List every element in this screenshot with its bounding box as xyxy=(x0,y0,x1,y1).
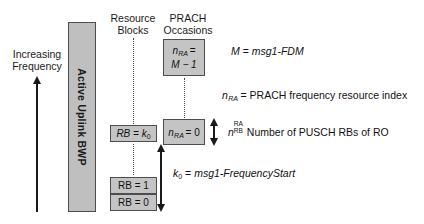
resource-blocks-dotted-line-upper xyxy=(133,38,134,124)
prach-occasion-0-label: nRA= 0 xyxy=(168,127,199,138)
legend-nrb-subscript: RB xyxy=(234,128,243,135)
legend-k0-eq: = xyxy=(185,167,191,179)
diagram-canvas: Increasing Frequency Active Uplink BWP R… xyxy=(0,0,424,224)
legend-m-fdm: M = msg1-FDM xyxy=(231,45,304,58)
legend-m-var: M xyxy=(231,45,240,57)
legend-nra-subscript: RA xyxy=(228,95,238,102)
prach-occasion-box-0: nRA= 0 xyxy=(163,119,205,145)
resource-block-box-k0: RB = k0 xyxy=(110,125,157,142)
column-header-prach-occasions: PRACH Occasions xyxy=(158,13,218,36)
legend-nra-var: n xyxy=(222,89,228,101)
resource-blocks-dotted-line-lower xyxy=(133,144,134,175)
increasing-frequency-arrow xyxy=(32,76,42,212)
k0-offset-measure-arrow xyxy=(156,144,166,212)
resource-block-box-0: RB = 0 xyxy=(110,194,157,211)
prach-occasions-dotted-line xyxy=(184,78,185,118)
legend-m-value: msg1-FDM xyxy=(252,45,304,57)
prach-occasion-box-m-minus-1: nRA= M − 1 xyxy=(163,39,205,76)
column-header-resource-blocks: Resource Blocks xyxy=(103,13,163,36)
active-uplink-bwp-bar: Active Uplink BWP xyxy=(68,22,96,212)
legend-nrb-supsub: RARB xyxy=(234,124,245,136)
prach-occasion-m-line2: M − 1 xyxy=(171,58,196,71)
legend-k0-subscript: 0 xyxy=(178,173,182,180)
legend-nrb-ra: nRARBNumber of PUSCH RBs of RO xyxy=(228,124,389,139)
prach-occasion-m-line1: nRA= xyxy=(172,44,195,58)
resource-block-box-1: RB = 1 xyxy=(110,177,157,194)
nrb-ra-measure-arrow xyxy=(209,118,219,146)
legend-nra-eq: = xyxy=(241,89,247,101)
increasing-frequency-label: Increasing Frequency xyxy=(6,48,68,72)
resource-block-k0-label: RB = k0 xyxy=(116,128,150,139)
legend-m-eq: = xyxy=(243,45,249,57)
active-uplink-bwp-label: Active Uplink BWP xyxy=(76,68,88,165)
legend-nra-index: nRA = PRACH frequency resource index xyxy=(222,89,407,103)
legend-nrb-value: Number of PUSCH RBs of RO xyxy=(247,126,389,138)
legend-nra-value: PRACH frequency resource index xyxy=(250,89,408,101)
legend-k0-value: msg1-FrequencyStart xyxy=(194,167,295,179)
legend-k0-frequency-start: k0 = msg1-FrequencyStart xyxy=(173,167,295,181)
